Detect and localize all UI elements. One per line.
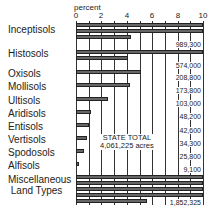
category-label: Miscellaneous Land Types — [8, 174, 71, 196]
acres-value: 208,800 — [175, 74, 202, 81]
bar-spodosols — [76, 149, 84, 153]
acres-value: 25,800 — [179, 153, 202, 160]
acres-value: 34,300 — [179, 140, 202, 147]
bar-mollisols — [76, 83, 130, 87]
category-label: Vertisols — [8, 135, 46, 145]
bar-entisols — [76, 123, 89, 127]
category-label: Entisols — [8, 122, 43, 132]
bar-aridisols — [76, 110, 91, 114]
state-total-line2: 4,061,225 acres — [100, 142, 154, 150]
bar-oxisols — [76, 70, 141, 74]
acres-value: 173,800 — [175, 87, 202, 94]
bar-miscellaneous-land-types — [76, 181, 203, 185]
category-label: Aridisols — [8, 109, 46, 119]
bar-miscellaneous-land-types — [76, 193, 203, 197]
bar-inceptisols — [76, 23, 203, 27]
acres-value: 103,000 — [175, 100, 202, 107]
bar-vertisols — [76, 136, 87, 140]
acres-value: 48,200 — [179, 113, 202, 120]
gridline — [203, 21, 204, 205]
x-tick: 4 — [125, 11, 129, 20]
category-label: Histosols — [8, 49, 49, 59]
state-total-annotation: STATE TOTAL 4,061,225 acres — [100, 134, 154, 150]
category-label: Alfisols — [8, 161, 40, 171]
bar-histosols — [76, 56, 128, 60]
bar-miscellaneous-land-types — [76, 175, 203, 179]
bar-miscellaneous-land-types — [76, 187, 203, 191]
bar-ultisols — [76, 97, 108, 101]
category-label: Mollisols — [8, 82, 46, 92]
x-tick: 8 — [176, 11, 180, 20]
x-tick: 0 — [74, 11, 78, 20]
acres-value: 989,300 — [175, 41, 202, 48]
x-tick: 10 — [199, 11, 208, 20]
category-label: Ultisols — [8, 96, 40, 106]
acres-value: 1,852,325 — [169, 199, 202, 206]
category-label: Oxisols — [8, 69, 41, 79]
bar-inceptisols — [76, 29, 203, 33]
acres-value: 42,600 — [179, 127, 202, 134]
bar-histosols — [76, 50, 203, 54]
x-tick: 6 — [150, 11, 154, 20]
bar-alfisols — [76, 162, 79, 166]
category-label: Spodosols — [8, 148, 55, 158]
bar-inceptisols — [76, 35, 131, 39]
acres-value: 574,000 — [175, 62, 202, 69]
acres-value: 9,100 — [182, 166, 202, 173]
category-label: Inceptisols — [8, 25, 55, 35]
x-tick: 2 — [99, 11, 103, 20]
bar-miscellaneous-land-types — [76, 199, 147, 203]
